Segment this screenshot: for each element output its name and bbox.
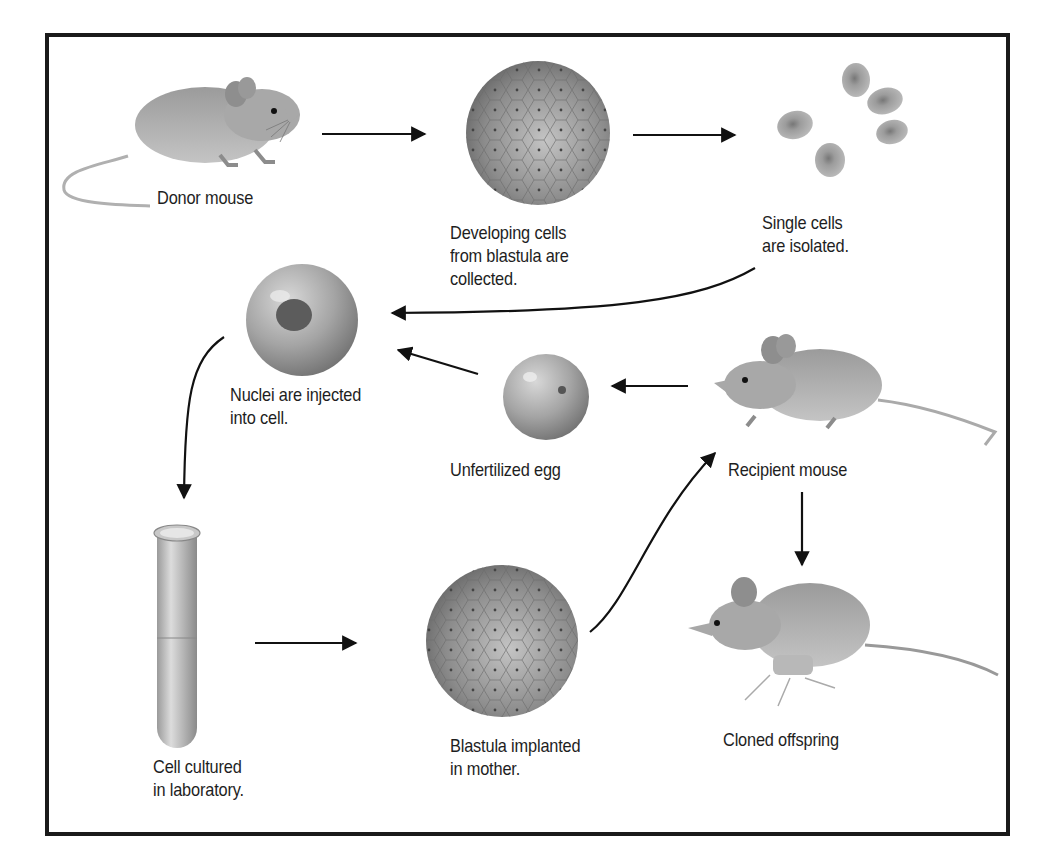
arrow-blastula-to-recipient xyxy=(590,453,715,632)
recipient-mouse-icon xyxy=(714,334,995,445)
arrow-cells-to-egg xyxy=(392,268,755,313)
label-blastula-cells: Developing cells from blastula are colle… xyxy=(450,221,569,290)
egg-with-nucleus-icon xyxy=(246,264,358,376)
arrow-egg-to-nucleated xyxy=(398,350,478,374)
test-tube-icon xyxy=(154,525,200,748)
arrow-egg-to-tube xyxy=(184,337,224,498)
label-nuclei-injected: Nuclei are injected into cell. xyxy=(230,383,361,429)
implanted-blastula-icon xyxy=(426,565,578,717)
blastula-icon xyxy=(466,61,610,205)
single-cells-icon xyxy=(774,63,911,177)
label-donor-mouse: Donor mouse xyxy=(157,186,253,209)
cloned-offspring-icon xyxy=(688,577,998,706)
label-unfertilized-egg: Unfertilized egg xyxy=(450,458,561,481)
label-single-cells: Single cells are isolated. xyxy=(762,211,849,257)
label-blastula-implanted: Blastula implanted in mother. xyxy=(450,734,580,780)
label-cell-cultured: Cell cultured in laboratory. xyxy=(153,755,244,801)
label-recipient-mouse: Recipient mouse xyxy=(728,458,847,481)
label-cloned-offspring: Cloned offspring xyxy=(723,728,839,751)
unfertilized-egg-icon xyxy=(503,354,589,440)
